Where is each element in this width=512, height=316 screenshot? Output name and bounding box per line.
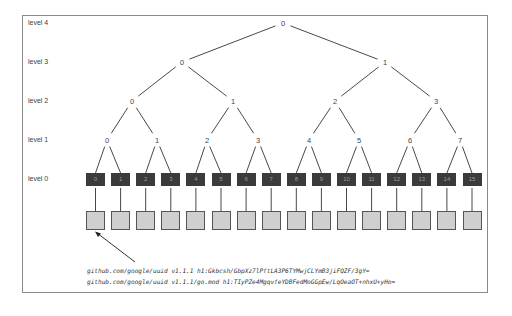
tree-node: 2: [205, 136, 209, 145]
tree-node: 0: [281, 19, 285, 28]
tree-edge: [412, 147, 421, 173]
tree-edge: [138, 67, 175, 96]
tree-node: 5: [357, 136, 361, 145]
data-block: [312, 211, 331, 230]
data-block: [412, 211, 431, 230]
tree-edge: [210, 146, 221, 173]
tree-edge: [196, 147, 205, 173]
leaf-node: 6: [237, 173, 256, 186]
data-block: [437, 211, 456, 230]
leaf-node: 3: [161, 173, 180, 186]
leaf-node: 11: [362, 173, 381, 186]
tree-edge: [397, 146, 408, 173]
data-block: [463, 211, 482, 230]
tree-edge: [96, 147, 105, 173]
tree-edge: [414, 108, 431, 134]
leaf-node: 9: [312, 173, 331, 186]
tree-node: 0: [105, 136, 109, 145]
tree-edge: [146, 147, 155, 173]
data-block: [237, 211, 256, 230]
leaf-node: 15: [463, 173, 482, 186]
tree-node: 3: [256, 136, 260, 145]
tree-edge: [341, 67, 378, 96]
tree-edge: [361, 147, 371, 173]
leaf-node: 10: [337, 173, 356, 186]
tree-node: 1: [231, 97, 235, 106]
data-block: [262, 211, 281, 230]
tree-edge: [211, 108, 228, 134]
tree-edge: [136, 108, 152, 134]
data-block: [362, 211, 381, 230]
tree-edge: [347, 147, 357, 173]
leaf-node: 12: [387, 173, 406, 186]
data-block: [287, 211, 306, 230]
tree-edge: [246, 147, 256, 173]
tree-edge: [261, 146, 272, 173]
tree-edge: [290, 26, 377, 59]
tree-edge: [188, 67, 226, 96]
tree-edge: [296, 147, 306, 173]
data-block: [161, 211, 180, 230]
arrowhead-icon: [95, 232, 101, 238]
hash-line-1: github.com/google/uuid v1.1.1 h1:Gkbcsh/…: [87, 267, 370, 274]
leaf-node: 2: [136, 173, 155, 186]
leaf-node: 14: [437, 173, 456, 186]
tree-node: 1: [383, 58, 387, 67]
tree-edge: [462, 147, 472, 173]
tree-edge: [447, 147, 458, 173]
tree-edge: [189, 26, 275, 59]
tree-node: 6: [408, 136, 412, 145]
tree-edge: [313, 108, 330, 134]
tree-node: 3: [434, 97, 438, 106]
tree-edge: [339, 108, 355, 133]
leaf-node: 0: [86, 173, 105, 186]
leaf-node: 5: [212, 173, 231, 186]
tree-node: 7: [458, 136, 462, 145]
tree-node: 0: [130, 97, 134, 106]
tree-edge: [311, 147, 321, 173]
leaf-node: 4: [186, 173, 205, 186]
arrow-line: [97, 233, 135, 262]
tree-edge: [440, 108, 456, 133]
tree-node: 2: [333, 97, 337, 106]
leaf-node: 7: [262, 173, 281, 186]
tree-edge: [160, 146, 171, 173]
data-block: [212, 211, 231, 230]
leaf-node: 1: [111, 173, 130, 186]
tree-node: 4: [307, 136, 311, 145]
tree-node: 0: [180, 58, 184, 67]
leaf-node: 13: [412, 173, 431, 186]
tree-edge: [391, 67, 429, 96]
leaf-node: 8: [287, 173, 306, 186]
tree-node: 1: [155, 136, 159, 145]
data-block: [86, 211, 105, 230]
data-block: [186, 211, 205, 230]
data-block: [387, 211, 406, 230]
hash-line-2: github.com/google/uuid v1.1.1/go.mod h1:…: [87, 278, 395, 285]
data-block: [111, 211, 130, 230]
tree-edge: [111, 108, 127, 134]
tree-edge: [110, 146, 121, 173]
tree-edge: [237, 108, 253, 134]
data-block: [136, 211, 155, 230]
data-block: [337, 211, 356, 230]
